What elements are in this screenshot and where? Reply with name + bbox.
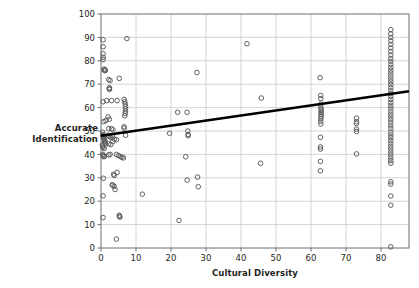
data-point [185, 178, 190, 183]
x-tick-label: 20 [166, 253, 177, 263]
regression-line [101, 91, 409, 135]
x-tick-label: 40 [236, 253, 247, 263]
data-point [259, 96, 264, 101]
x-tick-label: 30 [201, 253, 212, 263]
data-point [115, 98, 120, 103]
data-point [354, 152, 359, 157]
y-tick-label: 30 [84, 173, 95, 183]
y-tick-label: 0 [90, 243, 95, 253]
data-point [140, 192, 145, 197]
chart-canvas: 010203040506070809010001020304050607080 [0, 0, 419, 288]
data-point [101, 176, 106, 181]
data-point [177, 218, 182, 223]
y-tick-label: 10 [84, 220, 95, 230]
data-point [195, 70, 200, 75]
tick-marks [98, 14, 382, 252]
y-tick-label: 100 [79, 9, 95, 19]
data-point [108, 78, 113, 83]
y-axis-title: Accurate Identification [20, 123, 98, 144]
data-point [319, 96, 324, 101]
scatter-plot-figure: 010203040506070809010001020304050607080 … [0, 0, 419, 288]
data-point [318, 168, 323, 173]
data-point [113, 187, 118, 192]
data-point [106, 77, 111, 82]
y-tick-label: 80 [84, 56, 95, 66]
data-point [195, 175, 200, 180]
y-tick-label: 90 [84, 33, 95, 43]
data-point [183, 154, 188, 159]
data-point [258, 161, 263, 166]
x-axis-title: Cultural Diversity [101, 268, 409, 279]
data-point [117, 76, 122, 81]
x-tick-label: 10 [131, 253, 142, 263]
data-point [196, 184, 201, 189]
data-point [109, 126, 114, 131]
data-point [245, 41, 250, 46]
data-point [319, 122, 324, 127]
x-tick-label: 80 [376, 253, 387, 263]
data-point [125, 36, 130, 41]
data-point [114, 237, 119, 242]
trend-line [101, 91, 409, 135]
y-tick-label: 60 [84, 103, 95, 113]
gridlines [101, 14, 409, 248]
data-point [185, 110, 190, 115]
data-point [111, 128, 116, 133]
x-tick-label: 70 [341, 253, 352, 263]
data-point [318, 75, 323, 80]
data-point [175, 110, 180, 115]
y-tick-label: 40 [84, 150, 95, 160]
data-point [318, 159, 323, 164]
x-tick-label: 50 [271, 253, 282, 263]
data-point [389, 203, 394, 208]
y-tick-label: 70 [84, 79, 95, 89]
x-tick-label: 0 [98, 253, 103, 263]
data-point [389, 194, 394, 199]
x-tick-label: 60 [306, 253, 317, 263]
data-point [109, 98, 114, 103]
y-tick-label: 20 [84, 196, 95, 206]
data-point [318, 135, 323, 140]
